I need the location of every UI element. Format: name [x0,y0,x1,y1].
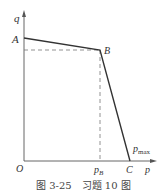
point-b-label: B [104,45,110,56]
curve-abc [24,38,130,161]
pmax-label: pmax [132,143,151,156]
diagram: q A B O pB C p pmax 图 3-25 习题 10 图 [0,0,161,195]
figure-caption: 图 3-25 习题 10 图 [36,180,131,191]
point-a-label: A [11,33,19,45]
x-axis-arrow-icon [150,159,157,163]
point-c-label: C [126,164,133,175]
origin-label: O [16,163,23,174]
y-axis-arrow-icon [22,10,26,17]
x-axis-label: p [144,164,150,175]
pb-tick-label: pB [93,164,104,177]
y-axis-label: q [14,12,20,24]
